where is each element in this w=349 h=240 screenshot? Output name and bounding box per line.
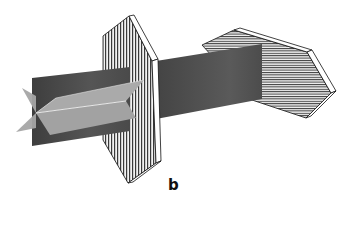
transmitted-beam	[156, 44, 262, 119]
panel-label: b	[168, 178, 179, 193]
